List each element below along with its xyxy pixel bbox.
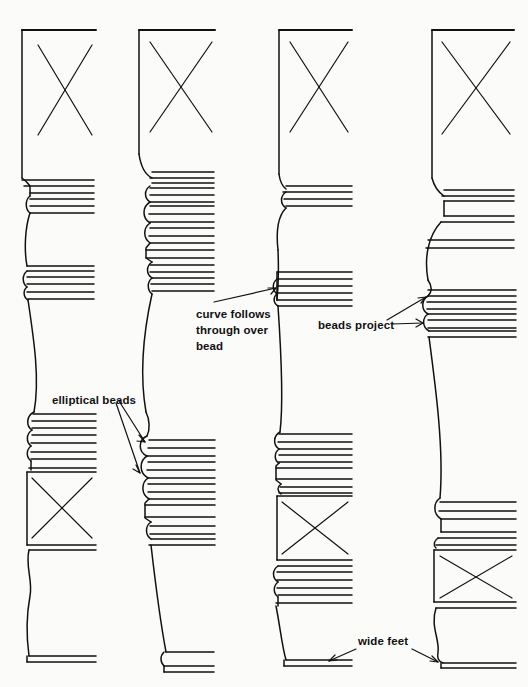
- leg-profile-4: [423, 30, 516, 668]
- annotation-curve-follows-through-over-bead: curve follows through over bead: [196, 306, 271, 354]
- x-mark-top-3: [290, 42, 348, 132]
- x-mark-bottom-4: [440, 556, 512, 598]
- annotation-leaders: [116, 288, 438, 662]
- x-mark-bottom-1: [32, 478, 92, 538]
- leader-beads-project-lower: [392, 319, 423, 327]
- leader-wide-feet-right: [412, 649, 438, 662]
- leg-profile-1: [22, 30, 96, 662]
- x-mark-top-4: [442, 42, 510, 134]
- annotation-wide-feet: wide feet: [358, 633, 408, 649]
- leg-profile-3: [273, 30, 352, 666]
- annotation-beads-project: beads project: [318, 317, 394, 333]
- annotation-elliptical-beads: elliptical beads: [52, 392, 136, 408]
- x-mark-top-1: [38, 45, 92, 135]
- leader-curve-follows: [214, 288, 276, 302]
- leader-wide-feet-left: [329, 649, 356, 661]
- leader-elliptical-lower: [116, 403, 140, 473]
- x-mark-bottom-3: [282, 502, 348, 554]
- x-mark-top-2: [150, 42, 212, 132]
- drawing-sheet: curve follows through over bead beads pr…: [0, 0, 528, 687]
